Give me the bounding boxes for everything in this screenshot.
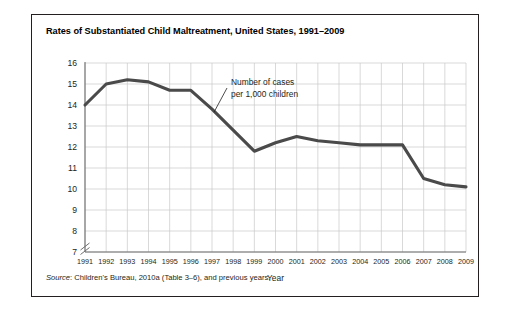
svg-text:14: 14 xyxy=(67,100,77,110)
svg-text:12: 12 xyxy=(67,142,77,152)
x-axis-tick-labels: 1991199219931994199519961997199819992000… xyxy=(77,257,474,266)
svg-text:2008: 2008 xyxy=(437,257,453,266)
svg-text:2006: 2006 xyxy=(395,257,411,266)
svg-text:1996: 1996 xyxy=(183,257,199,266)
svg-text:15: 15 xyxy=(67,79,77,89)
source-label: Source xyxy=(46,273,70,282)
source-note: Source: Children's Bureau, 2010a (Table … xyxy=(46,273,270,282)
svg-text:2007: 2007 xyxy=(416,257,432,266)
svg-text:1991: 1991 xyxy=(77,257,93,266)
svg-text:2001: 2001 xyxy=(289,257,305,266)
svg-text:Number of cases: Number of cases xyxy=(231,77,294,87)
figure-frame: Rates of Substantiated Child Maltreatmen… xyxy=(31,14,479,297)
y-axis-tick-labels: 16151413121110987 xyxy=(67,58,77,257)
source-text: : Children's Bureau, 2010a (Table 3–6), … xyxy=(70,273,270,282)
svg-text:per 1,000 children: per 1,000 children xyxy=(231,89,298,99)
svg-text:2002: 2002 xyxy=(310,257,326,266)
svg-text:1998: 1998 xyxy=(225,257,241,266)
svg-text:1999: 1999 xyxy=(246,257,262,266)
chart-plot-area: 16151413121110987 1991199219931994199519… xyxy=(32,15,480,298)
svg-text:2000: 2000 xyxy=(268,257,284,266)
svg-text:2004: 2004 xyxy=(352,257,368,266)
svg-text:1997: 1997 xyxy=(204,257,220,266)
svg-text:8: 8 xyxy=(72,226,77,236)
svg-text:1994: 1994 xyxy=(141,257,157,266)
svg-text:16: 16 xyxy=(67,58,77,68)
svg-text:2005: 2005 xyxy=(373,257,389,266)
svg-text:2009: 2009 xyxy=(458,257,474,266)
svg-text:11: 11 xyxy=(68,163,77,173)
svg-text:9: 9 xyxy=(72,205,77,215)
chart-annotation: Number of casesper 1,000 children xyxy=(214,77,298,112)
svg-text:1993: 1993 xyxy=(119,257,135,266)
svg-text:10: 10 xyxy=(67,184,77,194)
svg-text:13: 13 xyxy=(67,121,77,131)
svg-text:1995: 1995 xyxy=(162,257,178,266)
svg-text:1992: 1992 xyxy=(98,257,114,266)
line-chart: 16151413121110987 1991199219931994199519… xyxy=(32,15,480,298)
svg-text:2003: 2003 xyxy=(331,257,347,266)
